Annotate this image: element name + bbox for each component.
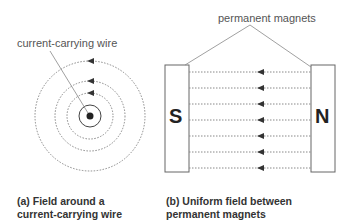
magnets-label: permanent magnets: [218, 12, 316, 24]
caption-a: (a) Field around a current-carrying wire: [17, 195, 122, 220]
wire-field-diagram: [35, 51, 145, 171]
caption-b: (b) Uniform field between permanent magn…: [166, 195, 292, 220]
caption-b-line2: permanent magnets: [166, 208, 292, 220]
caption-b-line1: (b) Uniform field between: [166, 195, 292, 208]
north-pole-label: N: [315, 105, 329, 128]
caption-a-line2: current-carrying wire: [17, 208, 122, 220]
magnets-field-diagram: [165, 25, 335, 172]
south-pole-label: S: [169, 105, 182, 128]
wire-label: current-carrying wire: [17, 37, 117, 49]
caption-a-line1: (a) Field around a: [17, 195, 122, 208]
